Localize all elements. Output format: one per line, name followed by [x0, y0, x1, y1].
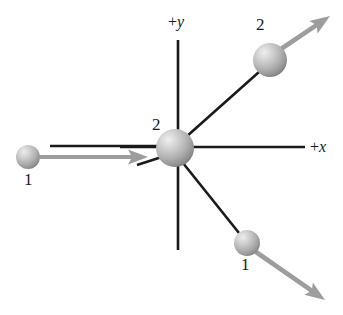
particle-label-incoming-1: 1 — [24, 171, 33, 188]
collision-diagram-figure: +y +x 1 2 2 1 — [0, 0, 343, 315]
incoming-velocity-arrow-1 — [40, 150, 148, 165]
collision-diagram-canvas — [0, 0, 343, 315]
outgoing-path-line-2 — [186, 72, 259, 137]
x-axis-label: +x — [310, 139, 326, 155]
particle-sphere-incoming-1 — [16, 145, 40, 169]
x-axis-name: x — [319, 138, 326, 155]
particle-sphere-outgoing-2 — [253, 43, 287, 77]
outgoing-path-line-1 — [183, 163, 239, 233]
outgoing-velocity-arrow-1 — [256, 252, 325, 300]
particle-label-outgoing-2: 2 — [256, 16, 265, 33]
y-axis-label: +y — [168, 14, 184, 30]
particle-label-target-2: 2 — [152, 116, 161, 133]
particle-spheres — [16, 43, 287, 256]
trajectory-lines — [50, 72, 259, 233]
particle-label-outgoing-1: 1 — [241, 256, 250, 273]
x-axis-sign: + — [310, 138, 319, 155]
outgoing-velocity-arrow-2 — [281, 16, 330, 49]
particle-sphere-target-2 — [156, 129, 194, 167]
y-axis-sign: + — [168, 13, 177, 30]
y-axis-name: y — [177, 13, 184, 30]
particle-sphere-outgoing-1 — [234, 230, 260, 256]
